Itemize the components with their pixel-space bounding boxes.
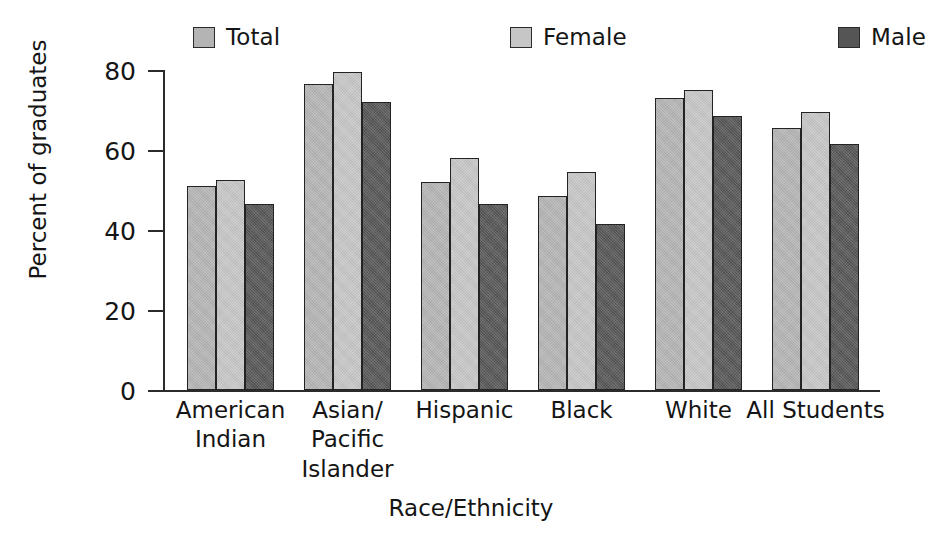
bar — [362, 102, 391, 390]
legend-item-total: Total — [193, 26, 280, 49]
y-axis-title: Percent of graduates — [27, 10, 50, 310]
bars-layer — [163, 70, 880, 390]
bar — [245, 204, 274, 390]
bar-group — [304, 70, 391, 390]
bar — [450, 158, 479, 390]
bar — [479, 204, 508, 390]
y-tick-label-20: 20 — [104, 298, 136, 323]
bar — [187, 186, 216, 390]
bar — [596, 224, 625, 390]
legend-item-male: Male — [838, 26, 926, 49]
bar — [216, 180, 245, 390]
bar — [304, 84, 333, 390]
bar-group — [538, 70, 625, 390]
y-tick-60: 60 — [148, 150, 163, 152]
x-axis-line — [163, 390, 880, 392]
legend-label-male: Male — [871, 26, 926, 49]
y-tick-label-80: 80 — [104, 58, 136, 83]
bar-group — [187, 70, 274, 390]
x-axis-title: Race/Ethnicity — [0, 497, 942, 520]
x-axis-category-label: All Students — [742, 396, 889, 425]
bar — [333, 72, 362, 390]
y-tick-label-0: 0 — [120, 378, 136, 403]
bar — [421, 182, 450, 390]
bar-group — [421, 70, 508, 390]
bar-group — [772, 70, 859, 390]
legend-swatch-female — [510, 27, 532, 48]
y-tick-40: 40 — [148, 230, 163, 232]
y-tick-label-40: 40 — [104, 218, 136, 243]
y-tick-0: 0 — [148, 390, 163, 392]
y-tick-label-60: 60 — [104, 138, 136, 163]
bar — [830, 144, 859, 390]
x-axis-category-labels: American IndianAsian/ Pacific IslanderHi… — [163, 396, 903, 492]
y-tick-20: 20 — [148, 310, 163, 312]
bar — [538, 196, 567, 390]
legend-label-total: Total — [226, 26, 280, 49]
bar — [772, 128, 801, 390]
bar — [567, 172, 596, 390]
legend-swatch-total — [193, 27, 215, 48]
bar — [801, 112, 830, 390]
bar — [684, 90, 713, 390]
legend-item-female: Female — [510, 26, 627, 49]
bar-chart: Total Female Male 80 60 40 20 0 A — [0, 0, 942, 541]
bar — [713, 116, 742, 390]
bar-group — [655, 70, 742, 390]
legend-label-female: Female — [543, 26, 627, 49]
legend-swatch-male — [838, 27, 860, 48]
plot-area: 80 60 40 20 0 — [163, 70, 880, 390]
y-tick-80: 80 — [148, 70, 163, 72]
bar — [655, 98, 684, 390]
chart-legend: Total Female Male — [0, 26, 942, 62]
